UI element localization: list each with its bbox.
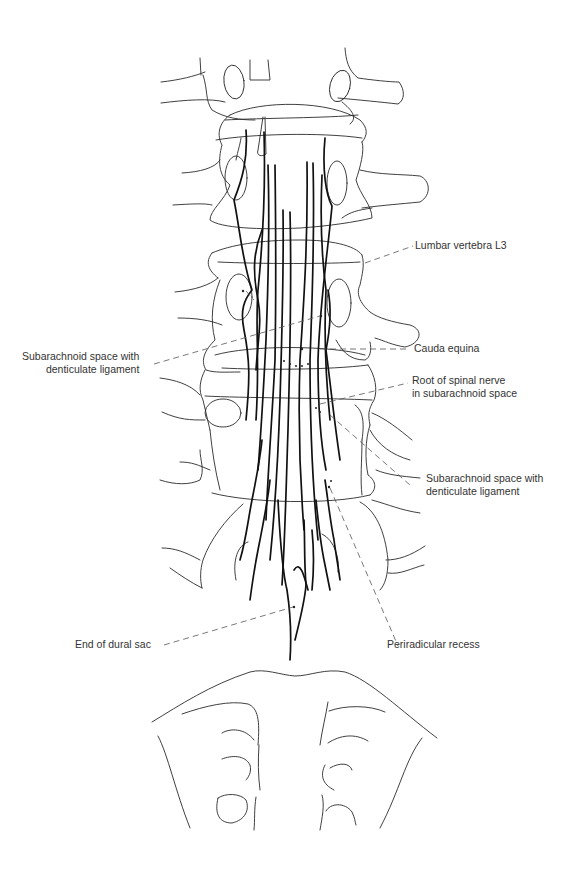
label-line-2: denticulate ligament (22, 363, 139, 376)
label-end-of-dural-sac: End of dural sac (75, 638, 151, 651)
label-cauda-equina: Cauda equina (414, 342, 479, 355)
leader-lines (154, 246, 413, 646)
spine-diagram (0, 0, 573, 870)
label-periradicular-recess: Periradicular recess (387, 638, 480, 651)
disc-l3-l4 (215, 348, 368, 370)
label-subarachnoid-space-right: Subarachnoid space with denticulate liga… (426, 472, 543, 498)
vertebra-top (161, 48, 403, 124)
vertebra-l4 (160, 365, 420, 513)
label-root-of-spinal-nerve: Root of spinal nerve in subarachnoid spa… (412, 374, 517, 400)
label-subarachnoid-space-left: Subarachnoid space with denticulate liga… (22, 350, 139, 376)
label-line-1: Root of spinal nerve (412, 374, 517, 387)
vertebra-l2 (173, 104, 428, 228)
label-line-2: in subarachnoid space (412, 387, 517, 400)
label-line-2: denticulate ligament (426, 485, 543, 498)
vertebra-l3 (175, 240, 419, 372)
sacrum (152, 671, 437, 830)
label-lumbar-vertebra-l3: Lumbar vertebra L3 (415, 239, 507, 252)
vertebra-l5 (162, 502, 425, 590)
cauda-equina-nerves (234, 130, 340, 660)
label-line-1: Subarachnoid space with (426, 472, 543, 485)
label-line-1: Subarachnoid space with (22, 350, 139, 363)
